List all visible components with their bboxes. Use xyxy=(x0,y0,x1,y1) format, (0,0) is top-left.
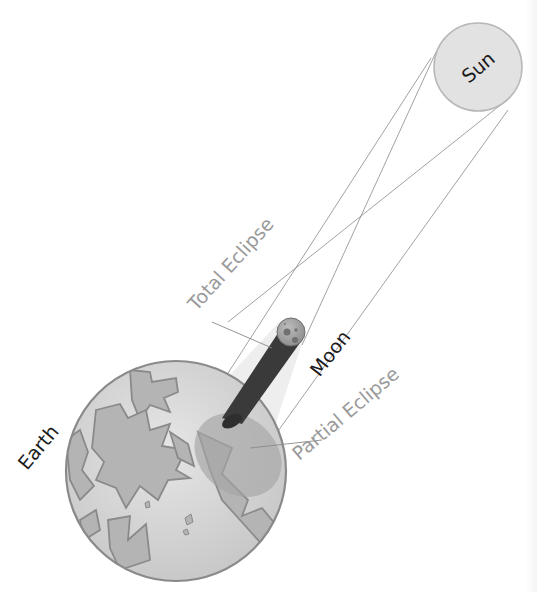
total-eclipse-callout: Total Eclipse xyxy=(182,213,277,348)
moon-crater xyxy=(284,323,286,325)
total-eclipse-label: Total Eclipse xyxy=(182,213,277,315)
moon-crater xyxy=(284,329,291,336)
moon-disc xyxy=(277,318,305,346)
earth-label: Earth xyxy=(13,420,63,473)
partial-eclipse-label: Partial Eclipse xyxy=(288,362,404,464)
moon-crater xyxy=(294,328,298,332)
total-eclipse-pointer xyxy=(212,322,272,348)
moon-label: Moon xyxy=(305,326,354,380)
moon-crater xyxy=(292,337,298,343)
sun: Sun xyxy=(434,23,522,111)
solar-eclipse-diagram: Sun Earth xyxy=(0,0,537,592)
